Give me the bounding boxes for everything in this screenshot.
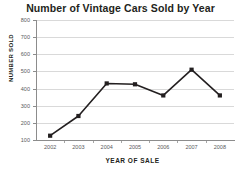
series-polyline xyxy=(50,70,220,136)
x-tick-label: 2003 xyxy=(65,144,91,150)
data-point-marker xyxy=(161,93,165,97)
y-tick-mark xyxy=(33,106,36,107)
y-tick-mark xyxy=(33,123,36,124)
y-tick-label: 700 xyxy=(8,34,30,40)
data-point-marker xyxy=(48,134,52,138)
data-point-marker xyxy=(76,114,80,118)
data-point-marker xyxy=(105,81,109,85)
data-series-line xyxy=(36,20,234,141)
x-tick-label: 2004 xyxy=(94,144,120,150)
series-markers xyxy=(48,68,222,138)
chart-title: Number of Vintage Cars Sold by Year xyxy=(0,2,241,14)
data-point-marker xyxy=(133,82,137,86)
x-tick-mark-minor xyxy=(93,141,94,143)
y-tick-label: 400 xyxy=(8,86,30,92)
y-tick-mark xyxy=(33,37,36,38)
data-point-marker xyxy=(189,68,193,72)
y-tick-mark xyxy=(33,89,36,90)
y-tick-label: 500 xyxy=(8,68,30,74)
y-tick-label: 300 xyxy=(8,103,30,109)
x-tick-mark-minor xyxy=(121,141,122,143)
x-tick-mark-minor xyxy=(206,141,207,143)
x-axis-title: YEAR OF SALE xyxy=(30,157,235,164)
x-tick-mark-minor xyxy=(177,141,178,143)
y-tick-label: 800 xyxy=(8,17,30,23)
y-tick-label: 200 xyxy=(8,120,30,126)
x-tick-label: 2006 xyxy=(150,144,176,150)
y-tick-mark xyxy=(33,20,36,21)
x-tick-mark-minor xyxy=(64,141,65,143)
x-tick-label: 2005 xyxy=(122,144,148,150)
chart-container: Number of Vintage Cars Sold by Year NUMB… xyxy=(0,0,241,173)
x-tick-mark-minor xyxy=(149,141,150,143)
x-tick-label: 2008 xyxy=(207,144,233,150)
y-tick-mark xyxy=(33,54,36,55)
y-tick-mark xyxy=(33,71,36,72)
data-point-marker xyxy=(218,93,222,97)
x-tick-label: 2002 xyxy=(37,144,63,150)
y-tick-label: 100 xyxy=(8,137,30,143)
y-tick-mark xyxy=(33,140,36,141)
y-tick-label: 600 xyxy=(8,51,30,57)
x-tick-label: 2007 xyxy=(179,144,205,150)
